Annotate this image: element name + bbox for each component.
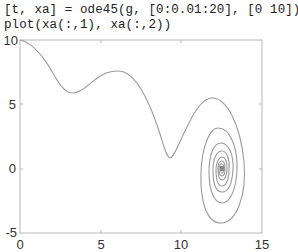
axis-ticks: [20, 40, 262, 233]
x-tick-5: 5: [97, 237, 104, 252]
spiral-center: [220, 166, 224, 171]
x-tick-10: 10: [174, 237, 188, 252]
axes-box: [20, 40, 262, 233]
x-tick-labels: 0 5 10 15: [16, 237, 269, 252]
y-tick-10: 10: [4, 33, 18, 48]
y-tick-5: 5: [9, 97, 16, 112]
plot-figure: 0 5 10 15 -5 0 5 10: [0, 0, 298, 252]
trajectory-line: [20, 40, 244, 223]
y-tick-0: 0: [9, 161, 16, 176]
x-tick-15: 15: [255, 237, 269, 252]
x-tick-0: 0: [16, 237, 23, 252]
y-tick-labels: -5 0 5 10: [4, 33, 18, 240]
y-tick-neg5: -5: [5, 225, 17, 240]
